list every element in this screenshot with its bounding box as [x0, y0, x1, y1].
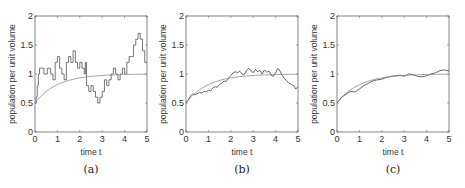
- y-tick-label: 0.5: [20, 98, 33, 108]
- stochastic-trajectory: [186, 68, 298, 103]
- x-tick-label: 1: [357, 134, 362, 144]
- y-tick-label: 2: [28, 11, 33, 21]
- panel-a: (a) time t population per unit volume 01…: [7, 11, 150, 176]
- y-axis-label: population per unit volume: [158, 24, 168, 124]
- x-tick-label: 3: [100, 134, 105, 144]
- x-tick-label: 0: [183, 134, 188, 144]
- x-axis-label: time t: [383, 147, 404, 157]
- x-tick-label: 1: [206, 134, 211, 144]
- x-tick-label: 4: [122, 134, 127, 144]
- x-tick-label: 1: [55, 134, 60, 144]
- x-tick-label: 0: [32, 134, 37, 144]
- deterministic-curve: [337, 74, 449, 103]
- x-axis-label: time t: [81, 147, 102, 157]
- x-tick-label: 5: [446, 134, 451, 144]
- x-tick-label: 2: [379, 134, 384, 144]
- deterministic-curve: [186, 74, 298, 103]
- x-tick-label: 0: [334, 134, 339, 144]
- x-tick-label: 3: [251, 134, 256, 144]
- y-tick-label: 0.5: [322, 98, 335, 108]
- x-tick-label: 2: [228, 134, 233, 144]
- y-tick-label: 1: [330, 69, 335, 79]
- y-tick-label: 0: [28, 127, 33, 137]
- x-axis-label: time t: [232, 147, 253, 157]
- y-axis-label: population per unit volume: [309, 24, 319, 124]
- panel-c: (c) time t population per unit volume 01…: [309, 11, 452, 176]
- y-tick-label: 1.5: [322, 40, 335, 50]
- y-tick-label: 2: [179, 11, 184, 21]
- x-tick-label: 5: [295, 134, 300, 144]
- panel-caption: (b): [234, 163, 250, 176]
- panel-caption: (a): [83, 163, 98, 176]
- y-tick-label: 0: [330, 127, 335, 137]
- y-tick-label: 1: [179, 69, 184, 79]
- panel-caption: (c): [386, 163, 401, 176]
- y-tick-label: 0: [179, 127, 184, 137]
- x-tick-label: 4: [273, 134, 278, 144]
- figure: (a) time t population per unit volume 01…: [0, 0, 465, 188]
- x-tick-label: 2: [77, 134, 82, 144]
- y-tick-label: 1: [28, 69, 33, 79]
- y-tick-label: 1.5: [20, 40, 33, 50]
- y-tick-label: 2: [330, 11, 335, 21]
- y-axis-label: population per unit volume: [7, 24, 17, 124]
- y-tick-label: 0.5: [171, 98, 184, 108]
- x-tick-label: 5: [144, 134, 149, 144]
- stochastic-trajectory: [337, 70, 449, 103]
- panel-b: (b) time t population per unit volume 01…: [158, 11, 301, 176]
- stochastic-trajectory: [35, 33, 147, 103]
- y-tick-label: 1.5: [171, 40, 184, 50]
- x-tick-label: 4: [424, 134, 429, 144]
- x-tick-label: 3: [402, 134, 407, 144]
